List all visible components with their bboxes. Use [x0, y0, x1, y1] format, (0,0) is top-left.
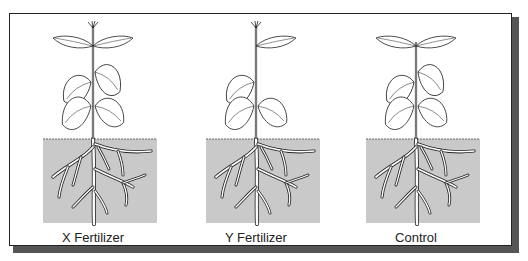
panel-y-fertilizer: Y Fertilizer	[176, 14, 336, 247]
figure-frame: X Fertilizer Y Fertilizer Control	[9, 13, 512, 246]
plant-x-illustration	[13, 14, 173, 229]
label-y-fertilizer: Y Fertilizer	[176, 230, 336, 245]
panel-control: Control	[336, 14, 496, 247]
label-control: Control	[336, 230, 496, 245]
panel-x-fertilizer: X Fertilizer	[13, 14, 173, 247]
label-x-fertilizer: X Fertilizer	[13, 230, 173, 245]
plant-control-illustration	[336, 14, 496, 229]
plant-y-illustration	[176, 14, 336, 229]
